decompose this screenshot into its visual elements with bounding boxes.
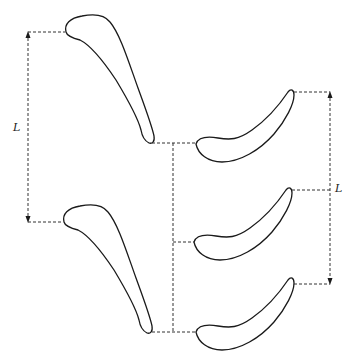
right-pitch-label: L [335, 183, 342, 194]
arrow-up-icon [328, 91, 333, 98]
center-connector-lines [152, 143, 196, 332]
right-blade-top [196, 90, 294, 162]
arrow-down-icon [328, 278, 333, 285]
left-pitch-label: L [13, 122, 20, 133]
right-pitch-dimension [292, 91, 333, 285]
blade-cascade-diagram [0, 0, 358, 362]
left-blade-bottom [64, 205, 153, 333]
left-pitch-dimension [26, 31, 66, 223]
left-blade-top [66, 15, 155, 143]
right-blade-bottom [196, 278, 294, 350]
right-blade-middle [194, 188, 292, 260]
